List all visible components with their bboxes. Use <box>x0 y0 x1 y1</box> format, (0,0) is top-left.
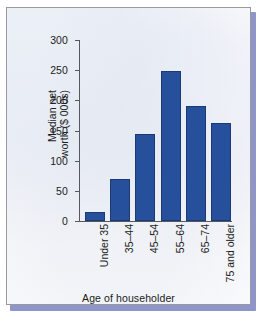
y-axis-tick-label: 50 <box>56 185 68 197</box>
x-axis-category-label: 45–54 <box>149 224 160 253</box>
x-axis-title: Age of householder <box>7 292 250 304</box>
x-axis-category-labels: Under 3535–4445–5455–6465–7475 and older <box>80 224 232 294</box>
y-axis-tick: 0 <box>75 221 79 222</box>
figure-root: Median net worth ($ 000s) 05010015020025… <box>0 0 260 323</box>
y-axis-tick-label: 200 <box>50 94 68 106</box>
y-axis-tick-label: 0 <box>62 215 68 227</box>
bar <box>161 71 181 221</box>
bar <box>186 106 206 221</box>
x-axis-category-label: 65–74 <box>200 224 211 253</box>
bar-series <box>80 40 232 221</box>
y-axis-tick: 150 <box>75 131 79 132</box>
bar <box>85 212 105 221</box>
x-axis-category-label: Under 35 <box>99 224 110 267</box>
y-axis-tick: 50 <box>75 191 79 192</box>
bar <box>211 123 231 221</box>
y-axis-tick-label: 300 <box>50 34 68 46</box>
chart-figure: Median net worth ($ 000s) 05010015020025… <box>6 7 251 305</box>
y-axis-tick: 200 <box>75 100 79 101</box>
y-axis-tick-label: 250 <box>50 64 68 76</box>
x-axis-category-label: 55–64 <box>175 224 186 253</box>
x-axis-category-label: 35–44 <box>124 224 135 253</box>
bar <box>135 134 155 221</box>
x-axis-category-label: 75 and older <box>225 224 236 282</box>
y-axis-tick: 300 <box>75 40 79 41</box>
bar <box>110 179 130 221</box>
y-axis-tick: 100 <box>75 161 79 162</box>
y-axis-tick-label: 150 <box>50 125 68 137</box>
y-axis-tick-label: 100 <box>50 155 68 167</box>
plot-area: 050100150200250300 <box>79 40 231 221</box>
y-axis-tick: 250 <box>75 70 79 71</box>
x-axis-line <box>79 221 232 222</box>
